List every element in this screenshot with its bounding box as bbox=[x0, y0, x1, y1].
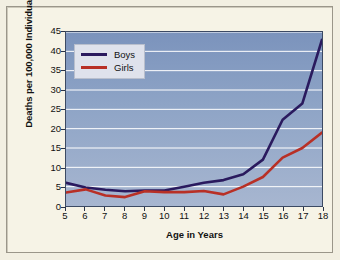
x-tick-label: 11 bbox=[174, 211, 194, 221]
x-tick-label: 16 bbox=[273, 211, 293, 221]
legend-swatch-girls bbox=[81, 66, 107, 69]
y-tick-label: 35 bbox=[39, 65, 61, 75]
x-tick-label: 5 bbox=[55, 211, 75, 221]
legend-label: Girls bbox=[114, 63, 134, 73]
y-tick-label: 25 bbox=[39, 104, 61, 114]
legend-item-girls: Girls bbox=[81, 61, 135, 74]
y-axis-title: Deaths per 100,000 Individuals bbox=[23, 0, 37, 145]
x-tick-label: 8 bbox=[115, 211, 135, 221]
x-axis-tick-labels: 56789101112131415161718 bbox=[65, 211, 323, 225]
figure-inner-frame: Deaths per 100,000 Individuals 051015202… bbox=[6, 6, 333, 253]
x-tick-label: 6 bbox=[75, 211, 95, 221]
x-tick-label: 17 bbox=[293, 211, 313, 221]
legend-swatch-boys bbox=[81, 53, 107, 56]
y-tick-label: 15 bbox=[39, 144, 61, 154]
x-tick-label: 18 bbox=[313, 211, 333, 221]
y-tick-label: 20 bbox=[39, 124, 61, 134]
y-tick-label: 5 bbox=[39, 183, 61, 193]
x-tick-label: 7 bbox=[95, 211, 115, 221]
y-tick-label: 40 bbox=[39, 46, 61, 56]
chart-stage: Deaths per 100,000 Individuals 051015202… bbox=[7, 7, 332, 252]
x-tick-label: 9 bbox=[134, 211, 154, 221]
y-tick-label: 30 bbox=[39, 85, 61, 95]
legend-item-boys: Boys bbox=[81, 48, 135, 61]
x-tick-label: 10 bbox=[154, 211, 174, 221]
figure-container: Deaths per 100,000 Individuals 051015202… bbox=[0, 0, 340, 260]
x-axis-title: Age in Years bbox=[62, 229, 327, 240]
x-tick-label: 14 bbox=[234, 211, 254, 221]
y-axis-tick-labels: 051015202530354045 bbox=[37, 31, 61, 207]
chart-legend: BoysGirls bbox=[74, 44, 145, 79]
y-tick-label: 45 bbox=[39, 26, 61, 36]
y-tick-label: 10 bbox=[39, 163, 61, 173]
legend-label: Boys bbox=[114, 50, 135, 60]
x-tick-label: 13 bbox=[214, 211, 234, 221]
x-tick-label: 12 bbox=[194, 211, 214, 221]
series-line-girls bbox=[66, 133, 322, 198]
x-tick-label: 15 bbox=[253, 211, 273, 221]
